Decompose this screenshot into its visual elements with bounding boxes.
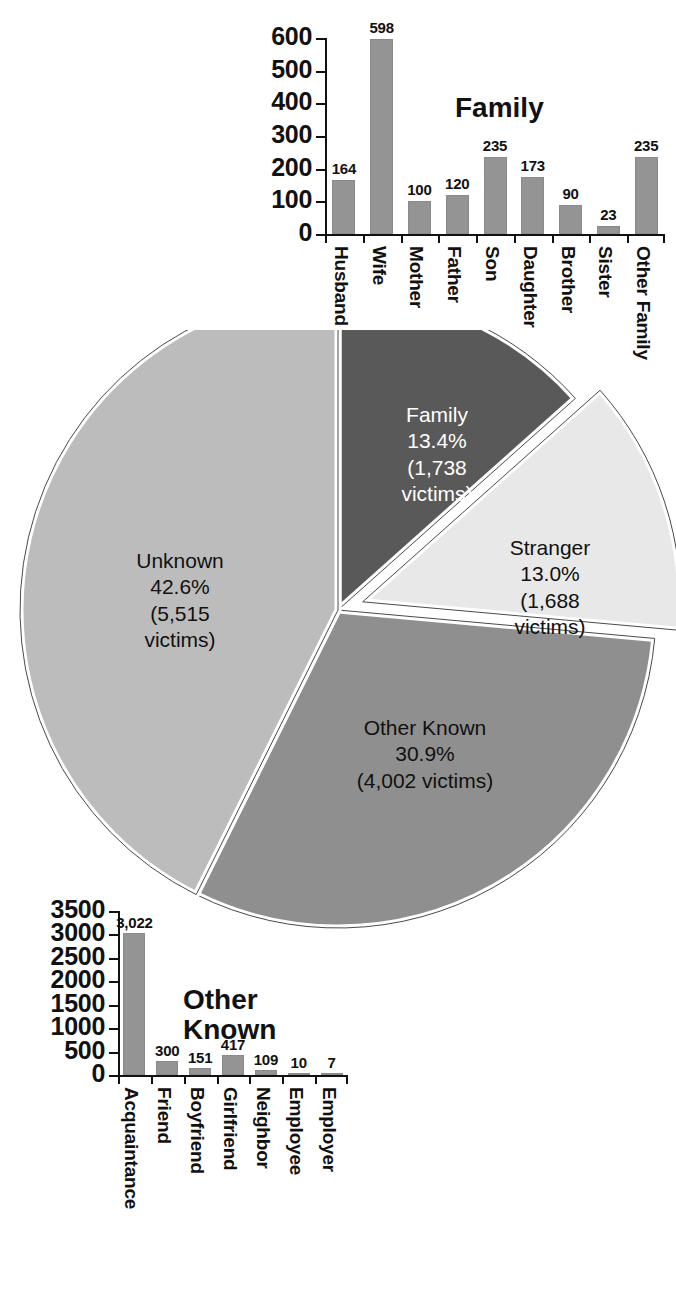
y-tick <box>109 1028 118 1030</box>
x-category-label: Boyfriend <box>186 1087 208 1174</box>
x-tick <box>151 1075 153 1084</box>
x-axis-line <box>325 234 665 236</box>
x-category-label: Employer <box>318 1087 340 1172</box>
bar <box>446 195 469 234</box>
other-known-bar-chart: Other Known 0500100015002000250030003500… <box>0 880 676 1296</box>
y-tick <box>316 103 325 105</box>
bar-value-label: 3,022 <box>94 914 174 931</box>
x-tick <box>476 234 478 243</box>
x-tick <box>184 1075 186 1084</box>
y-tick-label: 3500 <box>1 895 105 924</box>
x-category-label: Mother <box>405 246 427 308</box>
x-category-label: Wife <box>368 246 390 285</box>
bar-value-label: 235 <box>455 137 535 154</box>
x-category-label: Employee <box>285 1087 307 1175</box>
x-category-label: Girlfriend <box>219 1087 241 1171</box>
bar-value-label: 173 <box>493 157 573 174</box>
pie-label-stranger: Stranger 13.0% (1,688 victims) <box>455 535 645 641</box>
y-tick <box>109 911 118 913</box>
y-axis-line <box>325 38 327 236</box>
x-category-label: Acquaintance <box>120 1087 142 1209</box>
x-tick <box>438 234 440 243</box>
y-tick-label: 0 <box>238 218 312 247</box>
y-tick <box>316 38 325 40</box>
x-tick <box>663 234 665 243</box>
y-tick <box>109 1075 118 1077</box>
x-tick <box>217 1075 219 1084</box>
x-category-label: Father <box>443 246 465 303</box>
bar <box>370 39 393 234</box>
bar <box>321 1073 343 1075</box>
victim-offender-pie-chart: Family 13.4% (1,738 victims)Stranger 13.… <box>0 330 676 950</box>
pie-label-unknown: Unknown 42.6% (5,515 victims) <box>80 548 280 654</box>
x-tick <box>325 234 327 243</box>
y-tick-label: 100 <box>238 185 312 214</box>
bar <box>408 201 431 234</box>
y-tick-label: 200 <box>238 153 312 182</box>
figure-victim-offender-relationship: Family 0100200300400500600 1645981001202… <box>0 0 676 1296</box>
y-tick <box>109 958 118 960</box>
x-category-label: Friend <box>153 1087 175 1144</box>
x-tick <box>282 1075 284 1084</box>
bar-value-label: 235 <box>606 137 676 154</box>
x-tick <box>118 1075 120 1084</box>
y-tick <box>316 201 325 203</box>
y-axis-line <box>118 911 120 1077</box>
y-tick <box>109 1005 118 1007</box>
bar-value-label: 90 <box>531 185 611 202</box>
family-bar-chart: Family 0100200300400500600 1645981001202… <box>0 0 676 360</box>
bar-value-label: 7 <box>292 1054 372 1071</box>
x-category-label: Daughter <box>519 246 541 328</box>
x-category-label: Husband <box>330 246 352 326</box>
x-category-label: Son <box>481 246 503 281</box>
x-tick <box>315 1075 317 1084</box>
x-tick <box>346 1075 348 1084</box>
bar <box>597 226 620 234</box>
bar <box>288 1073 310 1075</box>
y-tick <box>109 934 118 936</box>
x-category-label: Neighbor <box>252 1087 274 1169</box>
x-tick <box>552 234 554 243</box>
pie-label-family: Family 13.4% (1,738 victims) <box>352 402 522 508</box>
x-category-label: Brother <box>557 246 579 313</box>
y-tick-label: 400 <box>238 87 312 116</box>
x-tick <box>514 234 516 243</box>
y-tick <box>316 234 325 236</box>
bar <box>189 1068 211 1075</box>
y-tick-label: 500 <box>238 55 312 84</box>
pie-label-other-known: Other Known 30.9% (4,002 victims) <box>300 715 550 794</box>
x-tick <box>627 234 629 243</box>
y-tick-label: 300 <box>238 120 312 149</box>
bar-value-label: 598 <box>342 19 422 36</box>
x-category-label: Sister <box>594 246 616 298</box>
y-tick <box>109 981 118 983</box>
y-tick <box>109 1052 118 1054</box>
bar <box>635 157 658 234</box>
x-tick <box>249 1075 251 1084</box>
family-chart-title: Family <box>455 93 544 123</box>
bar <box>332 180 355 234</box>
x-tick <box>401 234 403 243</box>
x-tick <box>589 234 591 243</box>
y-tick-label: 600 <box>238 22 312 51</box>
y-tick <box>316 71 325 73</box>
x-tick <box>363 234 365 243</box>
y-tick <box>316 136 325 138</box>
